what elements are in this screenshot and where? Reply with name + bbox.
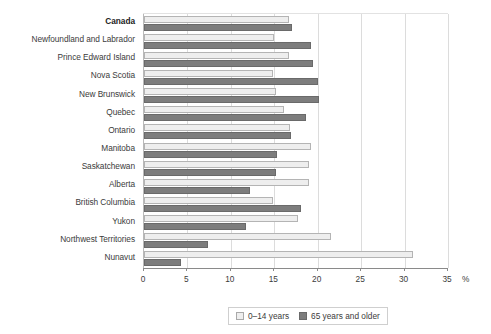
x-tick-mark-30 bbox=[404, 268, 405, 271]
category-label-6: Ontario bbox=[0, 126, 135, 135]
bar-young-11 bbox=[144, 215, 298, 222]
bar-group bbox=[144, 106, 448, 124]
bar-young-10 bbox=[144, 197, 273, 204]
x-tick-mark-20 bbox=[317, 268, 318, 271]
bar-group bbox=[144, 251, 448, 269]
x-tick-label-15: 15 bbox=[258, 274, 288, 284]
bar-group bbox=[144, 70, 448, 88]
legend-label-1: 65 years and older bbox=[311, 311, 380, 321]
x-tick-mark-0 bbox=[143, 268, 144, 271]
bar-old-7 bbox=[144, 151, 277, 158]
bar-young-3 bbox=[144, 70, 273, 77]
category-label-11: Yukon bbox=[0, 217, 135, 226]
bar-old-5 bbox=[144, 114, 306, 121]
x-axis-unit-label: % bbox=[462, 274, 469, 284]
bar-young-9 bbox=[144, 179, 309, 186]
bar-group bbox=[144, 124, 448, 142]
x-tick-label-5: 5 bbox=[171, 274, 201, 284]
bar-old-2 bbox=[144, 60, 313, 67]
bar-young-2 bbox=[144, 52, 289, 59]
category-axis-labels: CanadaNewfoundland and LabradorPrince Ed… bbox=[0, 14, 139, 268]
legend-label-0: 0–14 years bbox=[248, 311, 289, 321]
x-tick-label-25: 25 bbox=[345, 274, 375, 284]
bar-group bbox=[144, 143, 448, 161]
bar-young-8 bbox=[144, 161, 309, 168]
category-label-10: British Columbia bbox=[0, 198, 135, 207]
bar-young-12 bbox=[144, 233, 331, 240]
bar-group bbox=[144, 179, 448, 197]
bar-young-7 bbox=[144, 143, 311, 150]
legend-item-1[interactable]: 65 years and older bbox=[299, 311, 380, 321]
category-label-5: Quebec bbox=[0, 108, 135, 117]
category-label-1: Newfoundland and Labrador bbox=[0, 35, 135, 44]
x-tick-label-30: 30 bbox=[389, 274, 419, 284]
bar-old-12 bbox=[144, 241, 208, 248]
category-label-8: Saskatchewan bbox=[0, 162, 135, 171]
x-tick-mark-25 bbox=[360, 268, 361, 271]
bar-young-6 bbox=[144, 124, 290, 131]
legend-swatch-icon-0 bbox=[236, 312, 244, 320]
bar-old-10 bbox=[144, 205, 301, 212]
plot-area bbox=[143, 14, 448, 268]
bar-group bbox=[144, 88, 448, 106]
legend-item-0[interactable]: 0–14 years bbox=[236, 311, 289, 321]
x-tick-label-20: 20 bbox=[302, 274, 332, 284]
bar-group bbox=[144, 161, 448, 179]
x-tick-mark-10 bbox=[230, 268, 231, 271]
bar-old-11 bbox=[144, 223, 246, 230]
x-tick-label-0: 0 bbox=[128, 274, 158, 284]
bar-group bbox=[144, 34, 448, 52]
bar-old-3 bbox=[144, 78, 318, 85]
bar-young-4 bbox=[144, 88, 276, 95]
bar-group bbox=[144, 197, 448, 215]
category-label-2: Prince Edward Island bbox=[0, 53, 135, 62]
bar-young-5 bbox=[144, 106, 284, 113]
bar-old-9 bbox=[144, 187, 250, 194]
x-tick-mark-15 bbox=[273, 268, 274, 271]
bar-young-1 bbox=[144, 34, 274, 41]
x-tick-mark-35 bbox=[447, 268, 448, 271]
gridline-35 bbox=[448, 14, 449, 268]
chart-legend: 0–14 years65 years and older bbox=[228, 307, 388, 325]
legend-swatch-icon-1 bbox=[299, 312, 307, 320]
category-label-7: Manitoba bbox=[0, 144, 135, 153]
bar-old-0 bbox=[144, 24, 292, 31]
bar-old-6 bbox=[144, 132, 291, 139]
x-axis-line bbox=[143, 268, 448, 269]
bar-group bbox=[144, 52, 448, 70]
x-tick-mark-5 bbox=[186, 268, 187, 271]
bar-old-4 bbox=[144, 96, 319, 103]
category-label-9: Alberta bbox=[0, 180, 135, 189]
bar-old-8 bbox=[144, 169, 276, 176]
category-label-4: New Brunswick bbox=[0, 90, 135, 99]
x-tick-label-35: 35 bbox=[432, 274, 462, 284]
chart-container: CanadaNewfoundland and LabradorPrince Ed… bbox=[0, 0, 491, 334]
bar-young-0 bbox=[144, 16, 289, 23]
category-label-12: Northwest Territories bbox=[0, 235, 135, 244]
x-tick-label-10: 10 bbox=[215, 274, 245, 284]
bar-group bbox=[144, 16, 448, 34]
category-label-0: Canada bbox=[0, 17, 135, 26]
bar-old-13 bbox=[144, 259, 181, 266]
category-label-3: Nova Scotia bbox=[0, 71, 135, 80]
bar-group bbox=[144, 215, 448, 233]
bar-young-13 bbox=[144, 251, 413, 258]
category-label-13: Nunavut bbox=[0, 253, 135, 262]
bar-group bbox=[144, 233, 448, 251]
bar-old-1 bbox=[144, 42, 311, 49]
